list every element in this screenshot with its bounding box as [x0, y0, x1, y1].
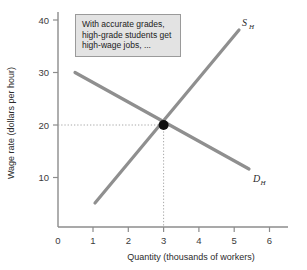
annotation-line-1: With accurate grades,: [82, 19, 175, 30]
y-tick-label-10: 10: [38, 172, 49, 183]
supply-curve-label-subscript: H: [248, 23, 255, 31]
x-tick-label-2: 2: [126, 235, 131, 246]
x-tick-label-6: 6: [267, 235, 272, 246]
x-tick-label-1: 1: [90, 235, 95, 246]
x-tick-label-0: 0: [55, 235, 60, 246]
annotation-callout: With accurate grades, high-grade student…: [75, 14, 181, 57]
x-tick-label-4: 4: [196, 235, 201, 246]
supply-curve-label: S: [242, 17, 247, 28]
y-tick-label-30: 30: [38, 67, 49, 78]
x-tick-label-3: 3: [161, 235, 166, 246]
chart-figure: 40 30 20 10 0 1 2 3 4 5 6 Quantity (thou…: [0, 0, 307, 270]
x-axis-title: Quantity (thousands of workers): [127, 252, 255, 262]
y-tick-label-40: 40: [38, 15, 49, 26]
annotation-line-2: high-grade students get: [82, 30, 175, 41]
demand-curve-label-subscript: H: [260, 179, 267, 187]
x-tick-label-5: 5: [232, 235, 237, 246]
y-tick-label-20: 20: [38, 120, 49, 131]
annotation-line-3: high-wage jobs, ...: [82, 40, 175, 51]
equilibrium-point: [159, 120, 169, 130]
y-axis-title: Wage rate (dollars per hour): [6, 67, 16, 179]
